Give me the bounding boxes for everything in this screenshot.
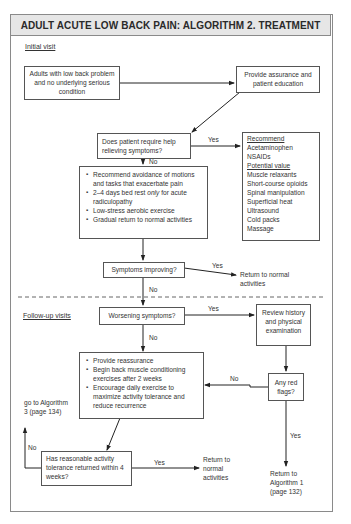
node-return-normal-2: Return to normal activities <box>203 455 243 482</box>
node-red-flags: Any red flags? <box>268 373 304 401</box>
followup-item: Provide reassurance <box>93 356 199 365</box>
followup-item: Begin back muscle conditioning exercises… <box>93 365 199 383</box>
node-algorithm-1: Return to Algorithm 1 (page 132) <box>270 469 315 496</box>
node-adults-low-back: Adults with low back problem and no unde… <box>24 66 120 100</box>
node-recommend-list: Recommend Acetaminophen NSAIDs Potential… <box>242 132 320 241</box>
recommend-item: Acetaminophen <box>247 143 315 152</box>
edge-label-yes: Yes <box>290 432 301 439</box>
edge-label-no: No <box>149 334 157 341</box>
edge-label-no: No <box>149 158 157 165</box>
potential-heading: Potential value <box>247 161 315 170</box>
node-algorithm-3: go to Algorithm 3 (page 134) <box>24 398 69 416</box>
node-review-history: Review history and physical examination <box>256 304 311 346</box>
potential-item: Superficial heat <box>247 197 315 206</box>
edge-label-yes: Yes <box>212 262 223 269</box>
node-followup-actions: Provide reassurance Begin back muscle co… <box>79 352 204 419</box>
potential-item: Short-course opioids <box>247 179 315 188</box>
section-initial-visit: Initial visit <box>25 43 55 50</box>
potential-item: Muscle relaxants <box>247 170 315 179</box>
node-activity-tolerance: Has reasonable activity tolerance return… <box>41 451 132 486</box>
node-worsening: Worsening symptoms? <box>99 307 185 325</box>
edge-label-no: No <box>230 375 238 382</box>
recommend-heading: Recommend <box>247 134 315 143</box>
node-require-help: Does patient require help relieving symp… <box>97 133 191 159</box>
potential-item: Massage <box>247 224 315 233</box>
node-assurance: Provide assurance and patient education <box>236 66 320 93</box>
recommend-item: NSAIDs <box>247 152 315 161</box>
node-symptoms-improving: Symptoms improving? <box>103 262 185 278</box>
edge-label-no: No <box>149 286 157 293</box>
edge-label-yes: Yes <box>208 305 219 312</box>
potential-item: Spinal manipulation <box>247 188 315 197</box>
edge-label-yes: Yes <box>208 136 219 143</box>
potential-item: Ultrasound <box>247 206 315 215</box>
advice-item: Recommend avoidance of motions and tasks… <box>93 170 203 188</box>
section-follow-up-visits: Follow-up visits <box>23 312 71 319</box>
potential-item: Cold packs <box>247 215 315 224</box>
advice-item: Low-stress aerobic exercise <box>93 206 203 215</box>
advice-item: Gradual return to normal activities <box>93 215 203 224</box>
node-initial-advice: Recommend avoidance of motions and tasks… <box>79 166 208 239</box>
edge-label-no: No <box>28 444 36 451</box>
node-return-normal-1: Return to normal activities <box>240 270 310 288</box>
followup-item: Encourage daily exercise to maximize act… <box>93 383 199 410</box>
advice-item-bed-rest: 2–4 days bed rest only for acute radicul… <box>93 188 203 206</box>
edge-label-yes: Yes <box>154 459 165 466</box>
